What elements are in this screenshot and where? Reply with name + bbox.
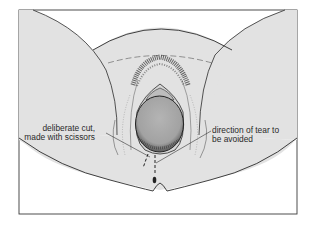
label-deliberate-cut: deliberate cut, made with scissors: [24, 124, 95, 142]
anus: [153, 177, 157, 183]
label-tear-direction: direction of tear to be avoided: [212, 126, 279, 144]
episiotomy-diagram: deliberate cut, made with scissors direc…: [0, 0, 313, 225]
